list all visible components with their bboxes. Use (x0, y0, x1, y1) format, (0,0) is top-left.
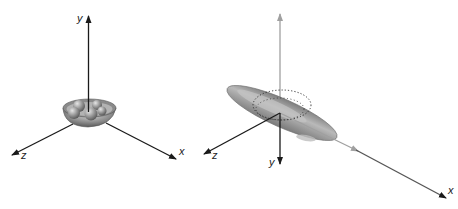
tilted-ellipsoid (221, 76, 342, 150)
figure: y z x z y x (0, 0, 458, 209)
left-z-label: z (20, 149, 27, 161)
bowl-with-spheres (63, 99, 116, 127)
left-x-axis (106, 123, 176, 159)
right-y-label: y (268, 156, 276, 168)
right-x-label: x (447, 184, 454, 196)
left-y-label: y (76, 12, 84, 24)
right-x-axis-extension (356, 150, 446, 198)
left-x-label: x (178, 145, 185, 157)
right-z-axis (204, 113, 280, 154)
left-panel: y z x (12, 12, 185, 161)
right-z-label: z (211, 149, 218, 161)
right-panel: z y x (204, 14, 454, 198)
